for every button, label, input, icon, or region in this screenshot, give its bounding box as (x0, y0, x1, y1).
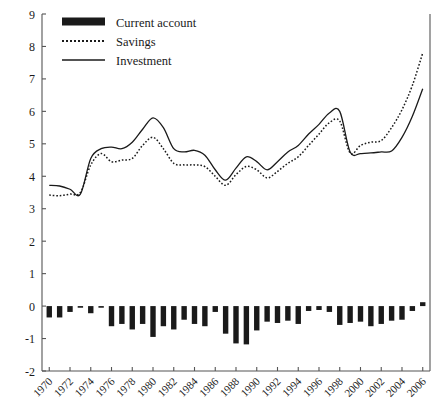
legend-label: Current account (116, 16, 197, 30)
bar (140, 306, 145, 324)
bar (399, 306, 404, 320)
y-tick-label: 2 (29, 235, 35, 249)
y-tick-label: -2 (25, 365, 35, 379)
legend-marker-thick-bar (62, 18, 105, 26)
y-tick-label: 5 (29, 137, 35, 151)
bar (109, 306, 114, 326)
bar (306, 306, 311, 311)
bar (347, 306, 352, 323)
y-tick-label: 4 (29, 170, 35, 184)
x-tick-label: 1982 (155, 375, 179, 399)
bar (130, 306, 135, 329)
x-tick-label: 1974 (72, 375, 96, 399)
y-tick-label: 7 (29, 72, 35, 86)
x-tick-label: 1996 (300, 375, 324, 399)
bar-series-current-account (47, 302, 426, 344)
y-tick-label: -1 (25, 332, 35, 346)
x-tick-label: 1992 (259, 375, 283, 399)
legend-item: Savings (62, 35, 156, 49)
x-tick-label: 1972 (51, 375, 75, 399)
x-tick-label: 1998 (321, 375, 345, 399)
x-tick-label: 2000 (342, 375, 366, 399)
bar (254, 306, 259, 330)
bar (275, 306, 280, 323)
x-tick-label: 1984 (176, 375, 200, 399)
bar (171, 306, 176, 329)
bar (78, 306, 83, 308)
bar (379, 306, 384, 324)
bar (410, 306, 415, 311)
y-tick-label: 8 (29, 40, 35, 54)
x-tick-label: 2004 (383, 375, 407, 399)
bar (389, 306, 394, 321)
y-tick-label: 1 (29, 267, 35, 281)
x-tick-label: 1990 (238, 375, 262, 399)
economic-indicators-chart: -2-1012345678919701972197419761978198019… (0, 0, 447, 413)
bar (223, 306, 228, 334)
bar (316, 306, 321, 310)
axes: -2-1012345678919701972197419761978198019… (25, 8, 430, 399)
series-line-investment (49, 89, 422, 196)
legend-label: Savings (116, 35, 156, 49)
bar (181, 306, 186, 320)
y-tick-label: 9 (29, 8, 35, 22)
bar (264, 306, 269, 322)
x-tick-label: 2002 (363, 375, 387, 399)
x-tick-label: 1988 (217, 375, 241, 399)
y-tick-label: 0 (29, 300, 35, 314)
bar (420, 302, 425, 306)
x-tick-label: 1994 (280, 375, 304, 399)
bar (233, 306, 238, 343)
bar (368, 306, 373, 326)
legend-item: Investment (62, 54, 172, 68)
y-tick-label: 6 (29, 105, 35, 119)
bar (202, 306, 207, 326)
bar (327, 306, 332, 312)
bar (47, 306, 52, 317)
bar (150, 306, 155, 337)
bar (88, 306, 93, 313)
bar (119, 306, 124, 324)
bar (57, 306, 62, 317)
bar (244, 306, 249, 344)
bar (285, 306, 290, 321)
x-tick-label: 1978 (114, 375, 138, 399)
bar (213, 306, 218, 312)
bar (161, 306, 166, 326)
x-tick-label: 2006 (404, 375, 428, 399)
legend-item: Current account (62, 16, 197, 30)
series-line-savings (49, 53, 422, 196)
x-tick-label: 1976 (93, 375, 117, 399)
bar (358, 306, 363, 322)
bar (192, 306, 197, 324)
x-tick-label: 1986 (197, 375, 221, 399)
bar (337, 306, 342, 325)
chart-legend: Current accountSavingsInvestment (62, 16, 197, 68)
chart-container: -2-1012345678919701972197419761978198019… (0, 0, 447, 413)
bar (98, 306, 103, 308)
bar (67, 306, 72, 312)
legend-label: Investment (116, 54, 172, 68)
bar (296, 306, 301, 324)
y-tick-label: 3 (29, 202, 35, 216)
x-tick-label: 1980 (134, 375, 158, 399)
